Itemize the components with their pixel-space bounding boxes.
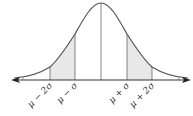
shaded-region-right xyxy=(127,34,152,80)
label-mu-minus-2sigma: μ − 2σ xyxy=(25,80,55,110)
label-mu-minus-sigma: μ − σ xyxy=(54,80,80,106)
normal-distribution-diagram: μ − 2σ μ − σ μ + σ μ + 2σ xyxy=(0,0,193,116)
shaded-region-left xyxy=(50,34,75,80)
label-mu-plus-2sigma: μ + 2σ xyxy=(127,80,157,110)
